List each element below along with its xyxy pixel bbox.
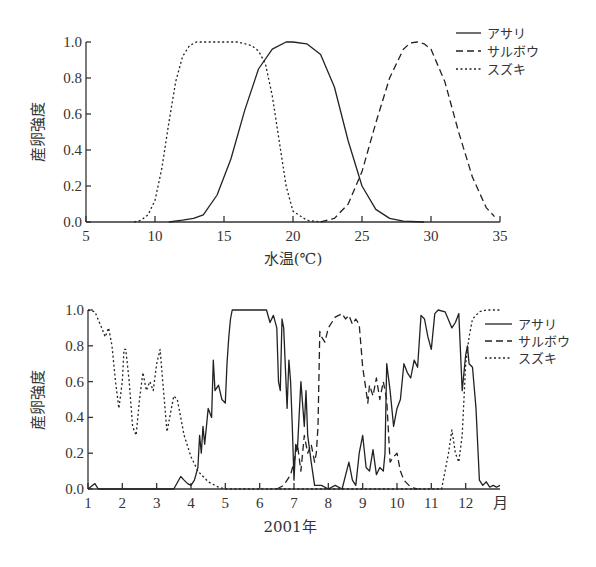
x-tick-label: 25 — [355, 228, 370, 244]
x-tick-label: 11 — [424, 495, 438, 511]
top-x-axis-title: 水温(℃) — [264, 250, 322, 268]
bottom-y-axis-title: 産卵強度 — [29, 370, 47, 430]
y-tick-label: 1.0 — [65, 302, 84, 318]
top-legend-asari: アサリ — [487, 26, 526, 41]
x-tick-label: 35 — [493, 228, 508, 244]
x-tick-label: 12 — [458, 495, 473, 511]
chart-canvas: 0.00.20.40.60.81.05101520253035 産卵強度 水温(… — [0, 0, 596, 567]
bottom-legend-suzuki: スズキ — [518, 351, 557, 366]
x-tick-label: 5 — [222, 495, 230, 511]
top-legend-saruboo: サルボウ — [487, 44, 539, 59]
x-tick-label: 3 — [153, 495, 161, 511]
top-ticks: 0.00.20.40.60.81.05101520253035 — [63, 34, 507, 244]
x-tick-label: 7 — [290, 495, 298, 511]
bottom-legend-asari: アサリ — [518, 317, 557, 332]
y-tick-label: 0.6 — [63, 106, 82, 122]
y-tick-label: 0.2 — [65, 445, 84, 461]
y-tick-label: 0.6 — [65, 374, 84, 390]
x-tick-label: 30 — [424, 228, 439, 244]
top-series — [134, 42, 494, 222]
x-tick-label: 月 — [493, 495, 508, 511]
x-tick-label: 20 — [286, 228, 301, 244]
y-tick-label: 0.4 — [63, 142, 82, 158]
bottom-series — [88, 310, 500, 489]
x-tick-label: 8 — [325, 495, 333, 511]
x-tick-label: 9 — [359, 495, 367, 511]
series-line — [169, 42, 424, 222]
y-tick-label: 0.0 — [63, 214, 82, 230]
bottom-x-axis-title: 2001年 — [263, 518, 316, 536]
x-tick-label: 5 — [82, 228, 90, 244]
x-tick-label: 2 — [119, 495, 127, 511]
x-tick-label: 1 — [84, 495, 92, 511]
y-tick-label: 0.8 — [65, 338, 84, 354]
top-axes: 0.00.20.40.60.81.05101520253035 — [63, 34, 507, 244]
y-tick-label: 0.0 — [65, 481, 84, 497]
series-line — [321, 42, 495, 222]
top-legend-suzuki: スズキ — [487, 62, 526, 77]
x-tick-label: 10 — [390, 495, 405, 511]
top-legend: アサリ サルボウ スズキ — [456, 26, 539, 77]
y-tick-label: 1.0 — [63, 34, 82, 50]
x-tick-label: 15 — [217, 228, 232, 244]
bottom-legend: アサリ サルボウ スズキ — [485, 317, 570, 366]
top-chart: 0.00.20.40.60.81.05101520253035 産卵強度 水温(… — [29, 26, 539, 268]
y-tick-label: 0.4 — [65, 409, 84, 425]
bottom-legend-saruboo: サルボウ — [518, 334, 570, 349]
y-tick-label: 0.2 — [63, 178, 82, 194]
y-tick-label: 0.8 — [63, 70, 82, 86]
x-tick-label: 10 — [148, 228, 163, 244]
series-line — [134, 42, 320, 222]
bottom-chart: 0.00.20.40.60.81.0123456789101112月 産卵強度 … — [29, 302, 570, 536]
x-tick-label: 4 — [187, 495, 195, 511]
x-tick-label: 6 — [256, 495, 264, 511]
series-line — [277, 314, 418, 489]
top-y-axis-title: 産卵強度 — [29, 102, 47, 162]
